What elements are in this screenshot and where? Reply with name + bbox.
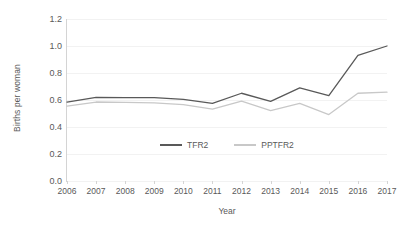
line-chart: Births per woman 0.00.20.40.60.81.01.2 2… bbox=[0, 0, 398, 234]
chart-legend: TFR2 PPTFR2 bbox=[160, 140, 294, 150]
x-tick-mark bbox=[96, 181, 97, 184]
x-tick-mark bbox=[154, 181, 155, 184]
x-tick-mark bbox=[212, 181, 213, 184]
x-tick-mark bbox=[242, 181, 243, 184]
x-tick-label: 2017 bbox=[369, 187, 398, 196]
series-lines-layer bbox=[0, 0, 398, 234]
x-axis-title: Year bbox=[67, 206, 387, 216]
legend-item-tfr2[interactable]: TFR2 bbox=[160, 140, 208, 150]
legend-item-pptfr2[interactable]: PPTFR2 bbox=[234, 140, 294, 150]
legend-label-tfr2: TFR2 bbox=[187, 140, 208, 150]
x-tick-mark bbox=[125, 181, 126, 184]
legend-label-pptfr2: PPTFR2 bbox=[261, 140, 294, 150]
x-axis-title-label: Year bbox=[218, 206, 235, 216]
series-line-pptfr2 bbox=[67, 92, 387, 114]
x-tick-mark bbox=[387, 181, 388, 184]
x-tick-mark bbox=[300, 181, 301, 184]
legend-swatch-tfr2 bbox=[160, 144, 182, 145]
series-line-tfr2 bbox=[67, 46, 387, 103]
x-tick-mark bbox=[329, 181, 330, 184]
x-tick-mark bbox=[358, 181, 359, 184]
x-tick-mark bbox=[183, 181, 184, 184]
x-tick-mark bbox=[271, 181, 272, 184]
legend-swatch-pptfr2 bbox=[234, 144, 256, 145]
x-tick-mark bbox=[67, 181, 68, 184]
